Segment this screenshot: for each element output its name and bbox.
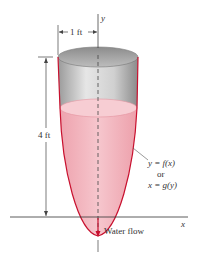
water-volume [60,99,137,236]
svg-text:x = g(y): x = g(y) [147,180,177,190]
width-label: 1 ft [70,27,83,37]
water-flow-label: Water flow [104,226,145,236]
svg-text:or: or [157,169,165,179]
curve-label: y = f(x) or x = g(y) [133,148,177,190]
x-axis-label: x [180,219,185,229]
water-surface [60,99,137,117]
height-dimension: 4 ft [38,57,53,216]
tank-diagram: y x 1 ft 4 ft y = f(x) or x = g(y) Water… [0,0,198,262]
y-axis-label: y [100,13,105,23]
height-label: 4 ft [38,130,51,140]
svg-text:y = f(x): y = f(x) [147,158,175,168]
